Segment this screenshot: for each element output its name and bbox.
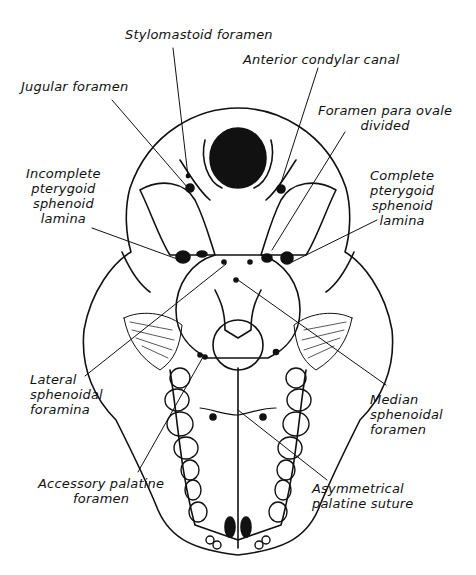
right-hatch (294, 313, 352, 370)
label-median-sphenoidal: Median sphenoidal foramen (370, 392, 443, 437)
label-foramen-para-ovale: Foramen para ovale divided (318, 103, 452, 133)
leader-incomplete-pterygoid (92, 228, 180, 260)
label-line: palatine suture (312, 496, 414, 511)
label-line: Stylomastoid foramen (125, 27, 273, 42)
label-complete-pterygoid: Complete pterygoid sphenoid lamina (370, 168, 434, 228)
label-line: pterygoid (370, 183, 434, 198)
label-line: sphenoid (370, 198, 434, 213)
label-line: lamina (370, 213, 434, 228)
label-line: Incomplete (26, 166, 101, 181)
label-line: sphenoidal (370, 407, 443, 422)
leader-jugular (112, 100, 188, 188)
leader-complete-pterygoid (292, 220, 377, 262)
label-line: sphenoidal (30, 387, 103, 402)
label-line: divided (318, 118, 452, 133)
label-line: Accessory palatine (38, 476, 164, 491)
label-line: pterygoid (26, 181, 101, 196)
label-line: sphenoid (26, 196, 101, 211)
leader-stylomastoid (173, 48, 188, 176)
label-line: foramen (38, 491, 164, 506)
label-lateral-sphenoidal: Lateral sphenoidal foramina (30, 372, 103, 417)
label-anterior-condylar-canal: Anterior condylar canal (243, 52, 400, 67)
label-line: Median (370, 392, 443, 407)
leader-asymmetrical-palatine (238, 410, 327, 480)
label-line: lamina (26, 211, 101, 226)
label-line: Anterior condylar canal (243, 52, 400, 67)
leader-anterior-condylar (280, 68, 318, 186)
label-line: foramen (370, 422, 443, 437)
label-line: Complete (370, 168, 434, 183)
label-line: Lateral (30, 372, 103, 387)
foramen-magnum (210, 128, 266, 188)
label-line: Asymmetrical (312, 481, 414, 496)
label-line: Jugular foramen (21, 79, 128, 94)
label-jugular-foramen: Jugular foramen (21, 79, 128, 94)
label-asymmetrical-palatine: Asymmetrical palatine suture (312, 481, 414, 511)
label-stylomastoid-foramen: Stylomastoid foramen (125, 27, 273, 42)
label-accessory-palatine: Accessory palatine foramen (38, 476, 164, 506)
label-line: Foramen para ovale (318, 103, 452, 118)
label-incomplete-pterygoid: Incomplete pterygoid sphenoid lamina (26, 166, 101, 226)
label-line: foramina (30, 402, 103, 417)
